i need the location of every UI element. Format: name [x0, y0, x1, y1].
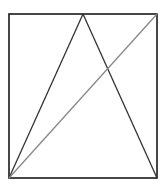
geometry-diagram [0, 0, 167, 191]
rectangle-diagonal [9, 14, 157, 178]
triangle-left-side [9, 14, 83, 178]
triangle-right-side [83, 14, 157, 178]
